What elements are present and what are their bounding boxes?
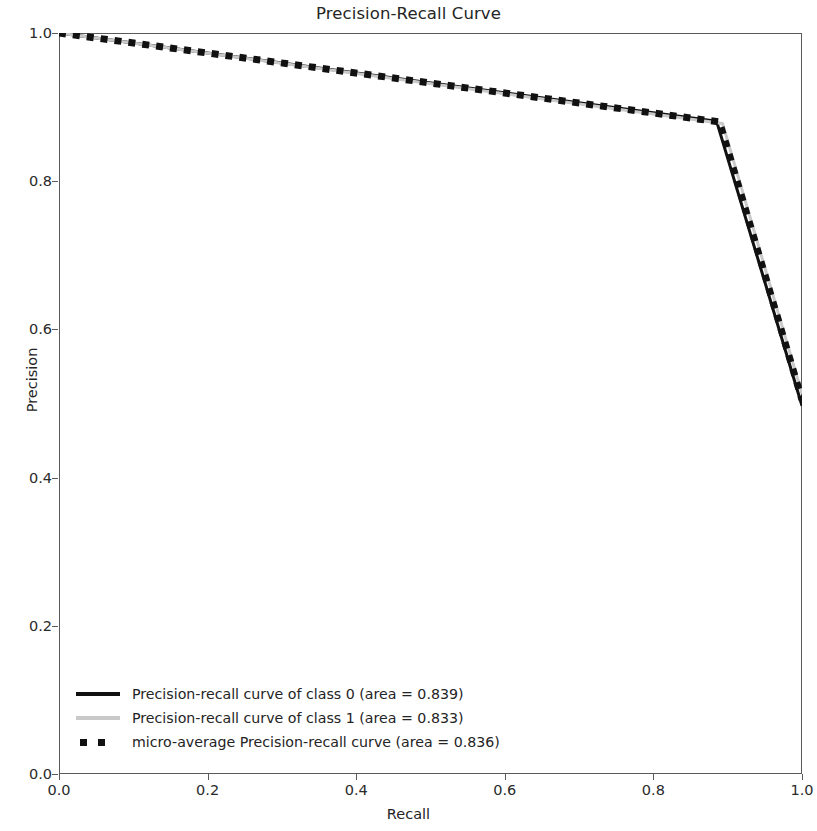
legend-swatch-icon <box>74 684 122 704</box>
x-tick-label: 0.0 <box>29 782 89 798</box>
x-tick-label: 0.6 <box>475 782 535 798</box>
y-tick-mark <box>52 774 58 775</box>
legend-item[interactable]: Precision-recall curve of class 0 (area … <box>74 682 500 706</box>
x-tick-mark <box>208 774 209 780</box>
y-tick-label: 0.2 <box>8 618 52 634</box>
legend-item-label: Precision-recall curve of class 1 (area … <box>132 710 464 726</box>
legend-item-label: Precision-recall curve of class 0 (area … <box>132 686 464 702</box>
y-tick-mark <box>52 478 58 479</box>
chart-legend: Precision-recall curve of class 0 (area … <box>66 676 510 760</box>
y-tick-mark <box>52 33 58 34</box>
legend-swatch-icon <box>74 732 122 752</box>
x-tick-mark <box>653 774 654 780</box>
x-tick-mark <box>59 774 60 780</box>
series-line <box>59 33 802 400</box>
x-tick-label: 0.8 <box>623 782 683 798</box>
y-tick-label: 0.0 <box>8 766 52 782</box>
page-title: Precision-Recall Curve <box>0 4 817 23</box>
y-tick-mark <box>52 626 58 627</box>
x-tick-label: 0.4 <box>326 782 386 798</box>
y-tick-label: 0.8 <box>8 173 52 189</box>
plot-canvas <box>59 33 802 774</box>
x-tick-label: 1.0 <box>772 782 817 798</box>
x-tick-label: 0.2 <box>178 782 238 798</box>
y-axis-label: Precision <box>24 320 40 440</box>
y-tick-mark <box>52 329 58 330</box>
x-axis-label: Recall <box>0 806 817 822</box>
legend-swatch-icon <box>74 708 122 728</box>
y-tick-label: 1.0 <box>8 25 52 41</box>
x-tick-mark <box>802 774 803 780</box>
legend-item[interactable]: micro-average Precision-recall curve (ar… <box>74 730 500 754</box>
x-tick-mark <box>505 774 506 780</box>
legend-item[interactable]: Precision-recall curve of class 1 (area … <box>74 706 500 730</box>
x-tick-mark <box>356 774 357 780</box>
y-tick-mark <box>52 181 58 182</box>
legend-item-label: micro-average Precision-recall curve (ar… <box>132 734 500 750</box>
chart-figure: Precision-Recall Curve 0.00.20.40.60.81.… <box>0 0 817 831</box>
series-line <box>59 33 802 406</box>
series-line <box>59 33 802 394</box>
y-tick-label: 0.4 <box>8 470 52 486</box>
